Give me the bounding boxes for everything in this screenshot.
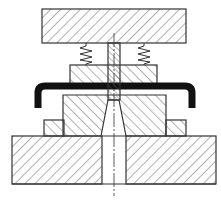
die-support-left: [44, 120, 64, 136]
base-plate-left: [12, 136, 102, 184]
die-support-right: [166, 120, 186, 136]
punch: [108, 43, 120, 100]
base-plate-right: [126, 136, 216, 184]
punch-die-diagram: [0, 0, 221, 207]
spring-right: [138, 43, 150, 65]
die: [63, 95, 166, 136]
spring-left: [80, 43, 92, 65]
